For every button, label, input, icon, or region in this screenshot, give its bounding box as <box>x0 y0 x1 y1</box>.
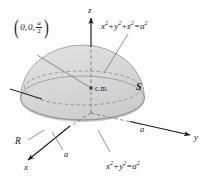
hemisphere-diagram: ( 0, 0, a 2 ) x2+y2+z2=a2 x2+y2=a2 z y x… <box>0 0 207 182</box>
fraction-denominator: 2 <box>36 28 42 35</box>
open-paren: ( <box>14 19 19 36</box>
sphere-exp-4: 2 <box>145 19 148 26</box>
surface-label: S <box>136 82 142 92</box>
leader-x-tick <box>52 132 63 150</box>
coord-x: 0, <box>20 22 27 32</box>
z-axis-label: z <box>88 6 92 15</box>
coord-y: 0, <box>28 22 35 32</box>
close-paren: ) <box>44 19 49 36</box>
leader-region-label <box>28 130 44 140</box>
fraction-numerator: a <box>36 20 42 27</box>
circle-equation-label: x2+y2=a2 <box>106 160 140 171</box>
y-axis <box>130 122 190 136</box>
x-axis-tick-label: a <box>64 150 68 159</box>
y-axis-tick-label: a <box>140 125 144 134</box>
center-of-mass-label: c.m. <box>95 85 108 93</box>
center-of-mass-coordinate-label: ( 0, 0, a 2 ) <box>13 19 49 36</box>
x-axis-label: x <box>24 163 28 172</box>
leader-circle-equation <box>98 130 110 152</box>
coord-z-fraction: a 2 <box>36 20 42 36</box>
region-label: R <box>15 137 21 147</box>
sphere-equation-label: x2+y2+z2=a2 <box>101 20 148 31</box>
y-axis-label: y <box>194 133 198 142</box>
circle-exp-3: 2 <box>137 159 140 166</box>
